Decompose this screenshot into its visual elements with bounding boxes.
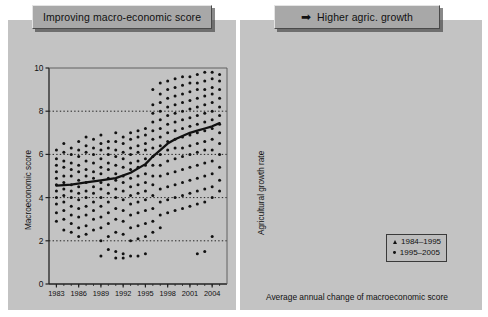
data-point-dot — [188, 125, 191, 128]
data-point-dot — [196, 73, 199, 76]
data-point-dot — [77, 149, 80, 152]
data-point-dot — [211, 149, 214, 152]
data-point-dot — [203, 162, 206, 165]
data-point-dot — [151, 207, 154, 210]
data-point-dot — [166, 88, 169, 91]
data-point-dot — [181, 92, 184, 95]
data-point-dot — [211, 138, 214, 141]
y-tick-label: 0 — [39, 279, 44, 289]
data-point-dot — [129, 153, 132, 156]
data-point-dot — [85, 213, 88, 216]
data-point-dot — [203, 103, 206, 106]
data-point-dot — [181, 118, 184, 121]
data-point-dot — [144, 127, 147, 130]
data-point-dot — [166, 211, 169, 214]
data-point-dot — [211, 235, 214, 238]
data-point-dot — [196, 142, 199, 145]
data-point-dot — [122, 157, 125, 160]
data-point-dot — [151, 194, 154, 197]
data-point-dot — [122, 233, 125, 236]
data-point-dot — [196, 203, 199, 206]
x-tick-label: 2001 — [182, 289, 198, 298]
data-point-dot — [181, 75, 184, 78]
data-point-dot — [107, 192, 110, 195]
data-point-dot — [188, 205, 191, 208]
data-point-dot — [92, 209, 95, 212]
data-point-dot — [196, 114, 199, 117]
x-tick-label: 1992 — [115, 289, 131, 298]
data-point-dot — [151, 138, 154, 141]
data-point-dot — [107, 222, 110, 225]
data-point-dot — [181, 168, 184, 171]
data-point-dot — [85, 233, 88, 236]
data-point-dot — [107, 183, 110, 186]
data-point-dot — [99, 205, 102, 208]
data-point-dot — [114, 172, 117, 175]
data-point-dot — [218, 73, 221, 76]
data-point-dot — [77, 216, 80, 219]
chart-legend: 1984–1995 1995–2005 — [386, 234, 447, 262]
data-point-dot — [129, 138, 132, 141]
data-point-dot — [181, 110, 184, 113]
data-point-dot — [107, 248, 110, 251]
data-point-dot — [122, 151, 125, 154]
data-point-dot — [218, 179, 221, 182]
data-point-dot — [114, 155, 117, 158]
legend-label: 1984–1995 — [401, 237, 441, 248]
left-chart-panel: 024681019831986198919921995199820012004 … — [8, 20, 236, 310]
data-point-dot — [166, 79, 169, 82]
data-point-dot — [107, 162, 110, 165]
data-point-dot — [166, 159, 169, 162]
data-point-dot — [114, 257, 117, 260]
right-x-axis-title: Average annual change of macroeconomic s… — [266, 292, 448, 302]
left-y-axis-title: Macroeconomic score — [24, 150, 33, 230]
y-tick-label: 8 — [39, 106, 44, 116]
data-point-dot — [159, 213, 162, 216]
data-point-dot — [129, 146, 132, 149]
data-point-dot — [203, 79, 206, 82]
data-point-dot — [174, 121, 177, 124]
data-point-dot — [181, 155, 184, 158]
data-point-dot — [92, 229, 95, 232]
data-point-dot — [218, 88, 221, 91]
data-point-dot — [62, 229, 65, 232]
data-point-dot — [166, 131, 169, 134]
data-point-dot — [70, 222, 73, 225]
data-point-dot — [144, 133, 147, 136]
data-point-dot — [174, 157, 177, 160]
data-point-dot — [62, 151, 65, 154]
data-point-dot — [99, 216, 102, 219]
data-point-dot — [114, 231, 117, 234]
data-point-dot — [114, 207, 117, 210]
data-point-dot — [99, 254, 102, 257]
data-point-dot — [211, 172, 214, 175]
data-point-dot — [203, 200, 206, 203]
x-tick-label: 1983 — [48, 289, 64, 298]
data-point-dot — [181, 146, 184, 149]
data-point-dot — [181, 127, 184, 130]
right-chart-panel: -10123456-0.200.000.200.400.60 Agricultu… — [240, 20, 482, 310]
y-tick-label: 10 — [34, 63, 44, 73]
data-point-dot — [159, 118, 162, 121]
data-point-dot — [99, 133, 102, 136]
data-point-dot — [129, 194, 132, 197]
data-point-dot — [70, 213, 73, 216]
data-point-dot — [196, 164, 199, 167]
data-point-dot — [211, 71, 214, 74]
y-tick-label: 6 — [39, 149, 44, 159]
data-point-dot — [203, 112, 206, 115]
data-point-dot — [122, 190, 125, 193]
data-point-dot — [62, 142, 65, 145]
data-point-dot — [85, 175, 88, 178]
caption-box-right[interactable]: ➡ Higher agric. growth — [274, 5, 440, 29]
data-point-dot — [203, 71, 206, 74]
caption-box-left[interactable]: Improving macro-economic score — [32, 5, 212, 29]
data-point-dot — [129, 177, 132, 180]
data-point-dot — [151, 88, 154, 91]
data-point-dot — [55, 220, 58, 223]
data-point-dot — [77, 198, 80, 201]
data-point-dot — [70, 196, 73, 199]
data-point-dot — [181, 101, 184, 104]
data-point-dot — [196, 151, 199, 154]
data-point-dot — [62, 181, 65, 184]
